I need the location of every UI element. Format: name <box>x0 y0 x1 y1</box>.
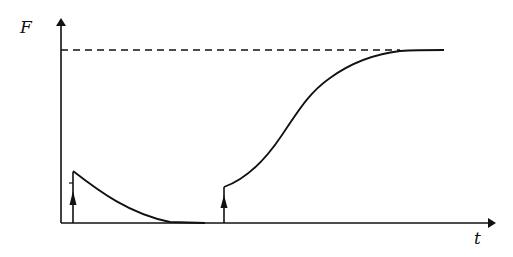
growth-curve <box>224 50 444 187</box>
decay-curve <box>73 171 205 223</box>
x-axis-label: t <box>474 228 481 248</box>
response-diagram: F t <box>0 0 513 257</box>
first-impulse-arrowhead-icon <box>70 191 77 205</box>
second-impulse-arrowhead-icon <box>221 195 228 208</box>
y-axis-label: F <box>19 17 33 37</box>
